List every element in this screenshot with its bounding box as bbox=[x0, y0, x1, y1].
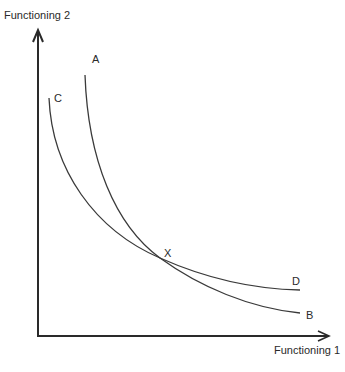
intersection-x-label: X bbox=[164, 247, 171, 259]
y-axis-label: Functioning 2 bbox=[4, 9, 70, 21]
curve-d-label: D bbox=[292, 275, 300, 287]
curve-c-label: C bbox=[54, 92, 62, 104]
x-axis-label: Functioning 1 bbox=[274, 344, 340, 356]
curve-a-label: A bbox=[92, 53, 99, 65]
indifference-curves-diagram: Functioning 2 Functioning 1 A B C D X bbox=[0, 0, 345, 372]
curve-cd bbox=[49, 98, 300, 290]
curve-ab bbox=[85, 75, 300, 313]
curve-b-label: B bbox=[306, 309, 313, 321]
diagram-canvas bbox=[0, 0, 345, 372]
